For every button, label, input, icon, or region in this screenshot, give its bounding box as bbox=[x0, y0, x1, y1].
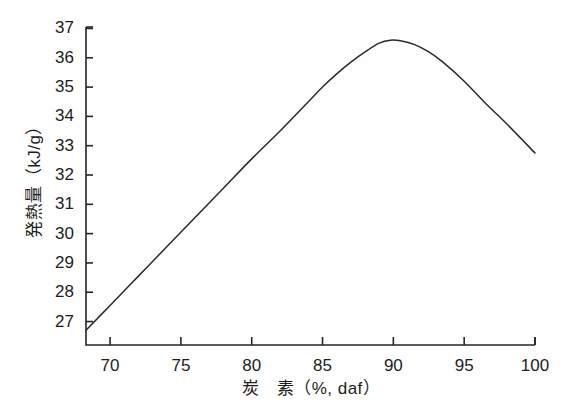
y-axis-tick-label: 31 bbox=[44, 195, 74, 212]
y-axis-tick-label: 35 bbox=[44, 78, 74, 95]
y-axis-tick-label: 30 bbox=[44, 225, 74, 242]
x-axis-tick-label: 85 bbox=[303, 357, 343, 374]
y-axis-tick-label: 28 bbox=[44, 283, 74, 300]
y-axis-tick-label: 34 bbox=[44, 107, 74, 124]
x-axis-ticks bbox=[110, 337, 535, 345]
x-axis-tick-label: 80 bbox=[232, 357, 272, 374]
x-axis-tick-label: 75 bbox=[161, 357, 201, 374]
y-axis-ticks bbox=[86, 28, 93, 321]
x-axis-tick-label: 70 bbox=[90, 357, 130, 374]
data-series-curve bbox=[86, 40, 535, 330]
y-axis-tick-label: 36 bbox=[44, 49, 74, 66]
y-axis-tick-label: 27 bbox=[44, 313, 74, 330]
y-axis-tick-label: 32 bbox=[44, 166, 74, 183]
plot-canvas bbox=[0, 0, 566, 414]
y-axis-tick-label: 37 bbox=[44, 19, 74, 36]
axis-lines bbox=[86, 27, 535, 345]
x-axis-title: 炭 素（%, daf） bbox=[86, 379, 536, 398]
x-axis-tick-label: 100 bbox=[515, 357, 555, 374]
y-axis-tick-label: 33 bbox=[44, 137, 74, 154]
y-axis-tick-label: 29 bbox=[44, 254, 74, 271]
x-axis-tick-label: 95 bbox=[444, 357, 484, 374]
figure-container: 2728293031323334353637 707580859095100 発… bbox=[0, 0, 566, 414]
y-axis-title: 発熱量（kJ/g） bbox=[25, 98, 44, 258]
x-axis-tick-label: 90 bbox=[373, 357, 413, 374]
